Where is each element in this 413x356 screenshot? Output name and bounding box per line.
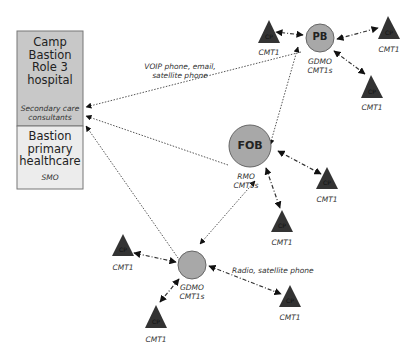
cp-text: CP — [272, 222, 292, 229]
gdmo-sub: GDMOCMT1s — [172, 283, 212, 301]
pb-label: PB — [305, 31, 335, 42]
primary-subtitle: SMO — [17, 174, 83, 183]
hospital-title: CampBastionRole 3hospital — [17, 36, 83, 86]
cp-text: CP — [379, 29, 399, 36]
cp-text: CP — [317, 179, 337, 186]
cmt1-label: CMT1 — [374, 45, 404, 54]
radio-label: Radio, satellite phone — [232, 266, 314, 275]
cp-text: CP — [113, 246, 133, 253]
primary-title: Bastionprimaryhealthcare — [17, 130, 83, 168]
pb-sub: GDMOCMT1s — [300, 57, 340, 75]
cp-text: CP — [280, 297, 300, 304]
hospital-subtitle: Secondary careconsultants — [17, 105, 83, 122]
cmt1-label: CMT1 — [108, 263, 138, 272]
fob-label: FOB — [230, 139, 270, 152]
gdmo-node — [178, 251, 206, 279]
cmt1-label: CMT1 — [254, 48, 284, 57]
voip-label: VOIP phone, email,satellite phone — [130, 62, 230, 80]
cmt1-label: CMT1 — [275, 313, 305, 322]
cp-text: CP — [362, 88, 382, 95]
cp-text: CP — [146, 318, 166, 325]
cmt1-label: CMT1 — [312, 195, 342, 204]
fob-sub: RMOCMT1s — [226, 172, 266, 190]
cmt1-label: CMT1 — [357, 103, 387, 112]
cmt1-label: CMT1 — [141, 335, 171, 344]
cmt1-label: CMT1 — [267, 238, 297, 247]
cp-text: CP — [259, 33, 279, 40]
